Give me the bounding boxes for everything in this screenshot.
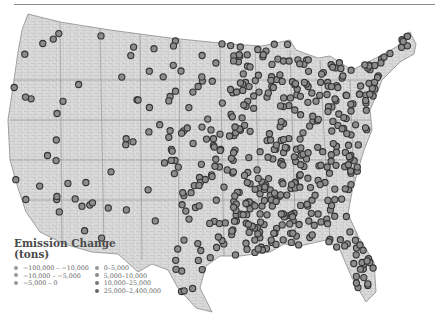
emission-marker-icon xyxy=(341,115,347,121)
emission-marker-icon xyxy=(230,169,236,175)
legend-swatch-icon xyxy=(14,273,18,277)
legend-swatch-icon xyxy=(95,289,99,293)
emission-marker-icon xyxy=(271,230,277,236)
emission-marker-icon xyxy=(278,192,284,198)
emission-marker-icon xyxy=(296,221,302,227)
emission-marker-icon xyxy=(363,98,369,104)
legend-swatch-icon xyxy=(14,281,18,285)
emission-marker-icon xyxy=(37,183,43,189)
emission-marker-icon xyxy=(273,198,279,204)
emission-marker-icon xyxy=(287,221,293,227)
legend-swatch-icon xyxy=(95,273,99,277)
emission-marker-icon xyxy=(364,258,370,264)
emission-marker-icon xyxy=(229,114,235,120)
emission-marker-icon xyxy=(287,95,293,101)
emission-marker-icon xyxy=(244,246,250,252)
emission-marker-icon xyxy=(332,96,338,102)
emission-marker-icon xyxy=(76,81,82,87)
emission-marker-icon xyxy=(11,84,17,90)
emission-marker-icon xyxy=(251,93,257,99)
emission-marker-icon xyxy=(196,203,202,209)
emission-marker-icon xyxy=(338,65,344,71)
emission-marker-icon xyxy=(213,156,219,162)
emission-marker-icon xyxy=(352,237,358,243)
emission-marker-icon xyxy=(105,205,111,211)
emission-marker-icon xyxy=(284,192,290,198)
emission-marker-icon xyxy=(317,92,323,98)
emission-marker-icon xyxy=(399,44,405,50)
emission-marker-icon xyxy=(266,176,272,182)
emission-marker-icon xyxy=(232,193,238,199)
emission-marker-icon xyxy=(297,172,303,178)
emission-marker-icon xyxy=(178,68,184,74)
emission-marker-icon xyxy=(362,125,368,131)
emission-marker-icon xyxy=(169,148,175,154)
legend-item: 10,000–25,000 xyxy=(95,279,161,287)
emission-marker-icon xyxy=(151,46,157,52)
emission-marker-icon xyxy=(280,181,286,187)
emission-marker-icon xyxy=(289,182,295,188)
emission-marker-icon xyxy=(337,237,343,243)
legend-item: −5,000 – 0 xyxy=(14,279,89,287)
emission-marker-icon xyxy=(365,281,371,287)
emission-marker-icon xyxy=(72,196,78,202)
legend-swatch-icon xyxy=(95,266,99,270)
emission-marker-icon xyxy=(180,190,186,196)
emission-marker-icon xyxy=(130,139,136,145)
legend-item: −10,000 – −5,000 xyxy=(14,272,89,280)
emission-marker-icon xyxy=(219,100,225,106)
emission-marker-icon xyxy=(363,107,369,113)
emission-marker-icon xyxy=(266,131,272,137)
emission-marker-icon xyxy=(214,244,220,250)
emission-marker-icon xyxy=(56,30,62,36)
emission-marker-icon xyxy=(260,52,266,58)
emission-marker-icon xyxy=(247,64,253,70)
emission-marker-icon xyxy=(353,252,359,258)
emission-marker-icon xyxy=(152,218,158,224)
emission-marker-icon xyxy=(22,94,28,100)
emission-marker-icon xyxy=(343,213,349,219)
emission-marker-icon xyxy=(353,122,359,128)
emission-marker-icon xyxy=(207,255,213,261)
emission-marker-icon xyxy=(251,105,257,111)
emission-marker-icon xyxy=(279,222,285,228)
emission-marker-icon xyxy=(160,74,166,80)
emission-marker-icon xyxy=(271,41,277,47)
emission-marker-icon xyxy=(305,68,311,74)
emission-marker-icon xyxy=(334,244,340,250)
emission-marker-icon xyxy=(305,99,311,105)
emission-marker-icon xyxy=(315,211,321,217)
emission-marker-icon xyxy=(40,40,46,46)
emission-marker-icon xyxy=(239,115,245,121)
emission-marker-icon xyxy=(44,152,50,158)
emission-marker-icon xyxy=(325,197,331,203)
emission-marker-icon xyxy=(89,200,95,206)
emission-marker-icon xyxy=(53,137,59,143)
emission-marker-icon xyxy=(355,142,361,148)
emission-marker-icon xyxy=(261,197,267,203)
emission-marker-icon xyxy=(65,180,71,186)
emission-marker-icon xyxy=(246,229,252,235)
emission-marker-icon xyxy=(330,118,336,124)
emission-marker-icon xyxy=(210,136,216,142)
emission-marker-icon xyxy=(328,152,334,158)
emission-marker-icon xyxy=(332,197,338,203)
emission-marker-icon xyxy=(306,218,312,224)
emission-marker-icon xyxy=(196,182,202,188)
emission-marker-icon xyxy=(157,122,163,128)
emission-marker-icon xyxy=(166,134,172,140)
emission-marker-icon xyxy=(344,131,350,137)
emission-marker-icon xyxy=(307,123,313,129)
emission-marker-icon xyxy=(330,141,336,147)
emission-marker-icon xyxy=(123,136,129,142)
emission-marker-icon xyxy=(347,229,353,235)
emission-marker-icon xyxy=(56,209,62,215)
emission-marker-icon xyxy=(305,175,311,181)
emission-marker-icon xyxy=(300,130,306,136)
emission-marker-icon xyxy=(186,105,192,111)
emission-marker-icon xyxy=(232,252,238,258)
emission-marker-icon xyxy=(307,185,313,191)
emission-marker-icon xyxy=(240,87,246,93)
emission-marker-icon xyxy=(297,184,303,190)
emission-marker-icon xyxy=(343,92,349,98)
